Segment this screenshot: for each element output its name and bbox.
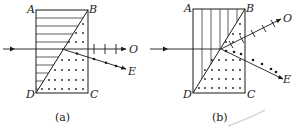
arrow-icon xyxy=(163,47,168,52)
figure-caption: (b) xyxy=(212,111,228,124)
label-o: O xyxy=(283,12,292,25)
label-o: O xyxy=(129,43,138,56)
figure-a: A B C D O E (a) xyxy=(3,3,138,124)
dot-pattern xyxy=(41,23,84,90)
label-e: E xyxy=(127,65,136,78)
horizontal-hatching xyxy=(36,18,88,89)
label-a: A xyxy=(183,2,192,15)
label-b: B xyxy=(245,2,254,15)
label-a: A xyxy=(26,3,35,16)
arrow-icon xyxy=(10,47,15,52)
label-b: B xyxy=(88,3,97,16)
label-e: E xyxy=(282,73,291,86)
label-c: C xyxy=(90,88,99,101)
label-d: D xyxy=(25,88,35,101)
extraordinary-ray xyxy=(221,49,283,79)
figure-caption: (a) xyxy=(55,111,70,124)
figure-b: A B C D O E (b) xyxy=(150,2,292,124)
label-d: D xyxy=(182,88,192,101)
prism-diagonal xyxy=(193,9,245,93)
label-c: C xyxy=(247,88,256,101)
scan-artifact xyxy=(228,110,265,126)
